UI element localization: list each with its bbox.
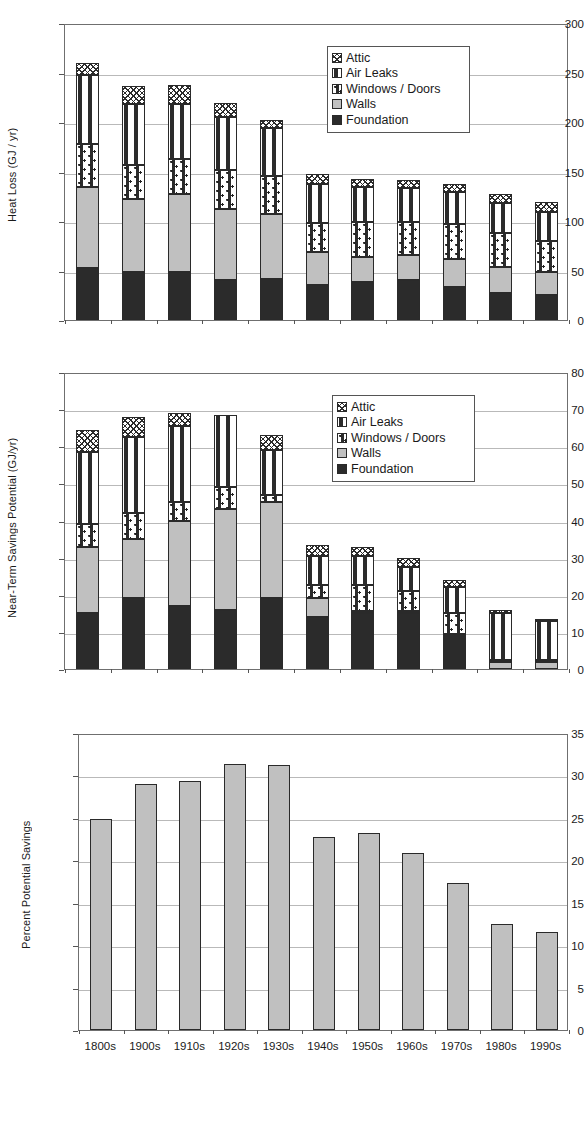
bar-segment-air-leaks [489, 203, 512, 233]
bar-segment-walls [489, 662, 512, 669]
x-axis-label-1940s: 1940s [301, 1040, 346, 1052]
x-axis-label-1950s: 1950s [345, 1040, 390, 1052]
x-axis-label-1930s: 1930s [256, 1040, 301, 1052]
y-axis-tick-label: 100 [528, 216, 584, 228]
bar-segment-windows-doors [76, 524, 99, 546]
bar-fill [402, 853, 424, 1030]
bar-segment-foundation [397, 613, 420, 669]
bar-1960s [397, 558, 420, 669]
panel-a-legend: Attic Air Leaks Windows / Doors Walls Fo… [327, 46, 470, 133]
y-axis-tick-mark [59, 522, 64, 523]
bar-segment-air-leaks [122, 437, 145, 513]
x-axis-tick-mark [111, 320, 112, 324]
bar-1930s [268, 765, 290, 1030]
y-axis-tick-mark [73, 776, 78, 777]
bar-segment-air-leaks [260, 450, 283, 495]
y-axis-tick-mark [59, 670, 64, 671]
bar-segment-windows-doors [489, 233, 512, 267]
legend-row: Walls [332, 97, 463, 113]
panel-b-y-axis-title: Near-Term Savings Potential (GJ/yr) [6, 385, 20, 670]
x-axis-tick-mark [202, 669, 203, 673]
y-axis-tick-label: 50 [528, 478, 584, 490]
panel-c-y-axis-title: Percent Potential Savings [20, 770, 34, 1000]
bar-segment-windows-doors [397, 222, 420, 255]
y-axis-tick-mark [59, 559, 64, 560]
x-axis-tick-mark [157, 669, 158, 673]
bar-segment-foundation [397, 280, 420, 320]
bar-segment-walls [489, 267, 512, 294]
bar-segment-windows-doors [214, 487, 237, 509]
y-axis-tick-label: 15 [514, 898, 584, 910]
bar-segment-attic [397, 558, 420, 567]
bar-segment-attic [76, 63, 99, 76]
legend-label-air-leaks: Air Leaks [351, 416, 403, 429]
bar-segment-foundation [489, 293, 512, 320]
bar-segment-foundation [122, 598, 145, 669]
y-axis-tick-label: 50 [528, 266, 584, 278]
x-axis-tick-mark [213, 1030, 214, 1034]
bar-segment-walls [351, 611, 374, 613]
bar-segment-attic [535, 619, 558, 621]
x-axis-label-1990s: 1990s [523, 1040, 568, 1052]
bar-1930s [260, 435, 283, 669]
bar-segment-attic [489, 610, 512, 614]
bar-segment-attic [260, 120, 283, 128]
bar-segment-windows-doors [306, 585, 329, 598]
bar-segment-attic [214, 103, 237, 117]
bar-segment-walls [168, 194, 191, 272]
bar-segment-windows-doors [443, 224, 466, 259]
bar-segment-walls [397, 255, 420, 281]
bar-segment-walls [122, 539, 145, 598]
x-axis-tick-mark [477, 669, 478, 673]
bar-1900s [122, 86, 145, 320]
gridline [65, 411, 567, 412]
x-axis-tick-mark [168, 1030, 169, 1034]
x-axis-label-1800s: 1800s [78, 1040, 123, 1052]
bar-segment-air-leaks [351, 556, 374, 586]
bar-1920s [224, 764, 246, 1030]
bar-fill [447, 883, 469, 1030]
legend-row: Walls [337, 446, 468, 462]
x-axis-label-1980s: 1980s [479, 1040, 524, 1052]
legend-swatch-windows-doors [332, 84, 342, 94]
bar-segment-attic [397, 180, 420, 188]
legend-row: Air Leaks [332, 66, 463, 82]
y-axis-tick-label: 25 [514, 813, 584, 825]
y-axis-tick-mark [59, 222, 64, 223]
y-axis-tick-mark [59, 633, 64, 634]
y-axis-tick-label: 300 [528, 18, 584, 30]
legend-swatch-walls [332, 99, 342, 109]
y-axis-tick-label: 35 [514, 728, 584, 740]
x-axis-tick-mark [480, 1030, 481, 1034]
bar-segment-windows-doors [397, 591, 420, 611]
bar-segment-windows-doors [443, 613, 466, 633]
x-axis-label-1900s: 1900s [123, 1040, 168, 1052]
x-axis-tick-mark [523, 320, 524, 324]
x-axis-tick-mark [340, 669, 341, 673]
y-axis-tick-mark [59, 447, 64, 448]
bar-fill [268, 765, 290, 1030]
bar-segment-windows-doors [260, 495, 283, 502]
bar-segment-windows-doors [535, 660, 558, 662]
bar-segment-walls [76, 187, 99, 267]
bar-fill [358, 833, 380, 1030]
bar-segment-walls [397, 611, 420, 613]
bar-1950s [351, 547, 374, 670]
x-axis-tick-mark [257, 1030, 258, 1034]
legend-swatch-foundation [337, 464, 347, 474]
x-axis-tick-mark [435, 1030, 436, 1034]
x-axis-tick-mark [340, 320, 341, 324]
gridline [65, 75, 567, 76]
bar-1930s [260, 120, 283, 320]
bar-1950s [351, 179, 374, 320]
bar-1940s [313, 837, 335, 1030]
bar-segment-attic [535, 202, 558, 212]
bar-segment-walls [306, 252, 329, 286]
y-axis-tick-mark [73, 819, 78, 820]
bar-segment-windows-doors [351, 222, 374, 257]
bar-1980s [491, 924, 513, 1030]
panel-b-plot-area [64, 373, 568, 670]
legend-label-air-leaks: Air Leaks [346, 67, 398, 80]
bar-segment-air-leaks [122, 104, 145, 164]
bar-segment-air-leaks [260, 128, 283, 177]
